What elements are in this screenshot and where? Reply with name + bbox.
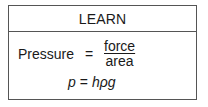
denominator: area	[104, 54, 135, 69]
pressure-formula: Pressure = force area	[18, 39, 188, 69]
formula-rhs: hρg	[92, 74, 116, 90]
numerator: force	[104, 39, 135, 54]
box-header: LEARN	[9, 6, 196, 32]
equals-sign: =	[80, 74, 88, 90]
equals-sign: =	[85, 46, 93, 62]
hydrostatic-formula: p=hρg	[68, 74, 116, 90]
fraction: force area	[104, 39, 135, 69]
learn-box: LEARN Pressure = force area p=hρg	[8, 5, 197, 100]
pressure-label: Pressure	[18, 46, 74, 62]
formula-lhs: p	[68, 74, 76, 90]
